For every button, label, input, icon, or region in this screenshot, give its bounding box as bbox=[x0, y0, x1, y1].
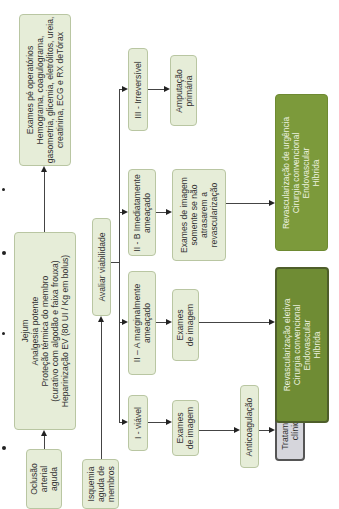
connector-exames-i-anticoag bbox=[199, 430, 234, 431]
box-jejum-medidas: Jejum Analgesia potente Proteção térmica… bbox=[14, 232, 76, 430]
connector-iii-amputacao bbox=[148, 89, 164, 90]
connector-anticoag-tratamento bbox=[259, 430, 269, 431]
connector-i-exames bbox=[148, 422, 166, 423]
box-revascularizacao-eletiva: Revascularização eletiva Cirurgia conven… bbox=[275, 267, 329, 423]
arrow-up-icon bbox=[41, 430, 47, 436]
box-exames-imagem-i: Exames de imagem bbox=[172, 400, 199, 456]
arrow-right-icon bbox=[166, 319, 172, 325]
arrow-right-icon bbox=[122, 209, 128, 215]
box-revascularizacao-urgencia: Revascularização de urgência Cirurgia co… bbox=[275, 94, 328, 251]
arrow-right-icon bbox=[122, 86, 128, 92]
connector-jejum-exames bbox=[44, 172, 45, 232]
arrow-right-icon bbox=[166, 419, 172, 425]
box-isquemia-aguda: Isquemia aguda de membros bbox=[82, 459, 119, 509]
arrow-up-icon bbox=[98, 316, 104, 322]
arrow-right-icon bbox=[234, 427, 240, 433]
box-exames-pre-operatorios: Exames pé operatórios Hemograma, coagulo… bbox=[19, 14, 71, 166]
arrow-right-icon bbox=[164, 86, 170, 92]
arrow-right-icon bbox=[269, 319, 275, 325]
connector-isquemia-avaliar bbox=[101, 322, 102, 459]
connector-oclusao-jejum bbox=[44, 436, 45, 449]
box-iii-irreversivel: III - Irreversível bbox=[128, 48, 148, 131]
box-exames-imagem-iia: Exames de imagem bbox=[172, 289, 199, 361]
arrow-right-icon bbox=[122, 419, 128, 425]
connector-exames-iia-eletiva bbox=[199, 322, 269, 323]
arrow-up-icon bbox=[41, 166, 47, 172]
box-exames-imagem-iib: Exames de imagem somente se não atrasare… bbox=[172, 169, 226, 261]
arrow-right-icon bbox=[269, 200, 275, 206]
margin-mark bbox=[2, 188, 5, 191]
arrow-right-icon bbox=[166, 209, 172, 215]
arrow-right-icon bbox=[122, 319, 128, 325]
box-iia-marginalmente-ameacado: II – A marginalmente ameaçado bbox=[128, 271, 156, 375]
margin-mark bbox=[2, 251, 6, 255]
branch-vertical bbox=[119, 89, 120, 423]
box-avaliar-viabilidade: Avaliar viabilidade bbox=[92, 218, 111, 316]
box-iib-imediatamente-ameacado: II - B Imediatamente ameaçado bbox=[128, 169, 156, 256]
arrow-right-icon bbox=[269, 427, 275, 433]
box-oclusao-arterial-aguda: Oclusão arterial aguda bbox=[26, 449, 62, 509]
connector-exames-iib-urgencia bbox=[226, 203, 269, 204]
margin-mark bbox=[2, 332, 5, 335]
box-i-viavel: I - viável bbox=[128, 395, 148, 451]
connector-iib-exames bbox=[156, 212, 166, 213]
box-amputacao-primaria: Amputação primária bbox=[170, 55, 197, 126]
box-anticoagulacao: Anticoagulação bbox=[240, 385, 259, 468]
margin-mark bbox=[2, 446, 6, 450]
connector-iia-exames bbox=[156, 322, 166, 323]
